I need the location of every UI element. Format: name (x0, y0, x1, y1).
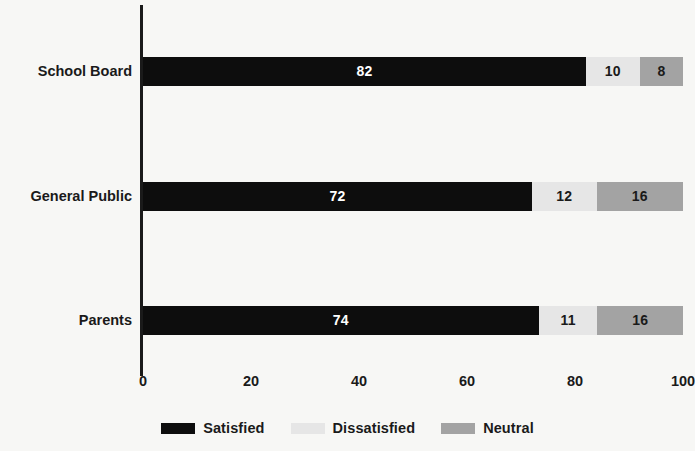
x-axis-tick-label: 80 (567, 373, 583, 389)
x-axis-tick-label: 40 (351, 373, 367, 389)
bar-segment-value-label: 10 (605, 64, 621, 78)
x-axis-tick-labels: 020406080100 (143, 373, 683, 397)
x-axis-tick-label: 60 (459, 373, 475, 389)
bar-segment-value-label: 11 (560, 313, 575, 327)
bar-segment-value-label: 8 (657, 64, 665, 78)
bar-segment[interactable]: 16 (597, 182, 683, 211)
legend-label: Dissatisfied (333, 420, 416, 436)
bar-segment-value-label: 16 (632, 313, 648, 327)
bar-row: 741116 (143, 306, 683, 335)
legend-item[interactable]: Dissatisfied (291, 420, 416, 436)
category-label-text: School Board (38, 63, 132, 79)
bar-segment[interactable]: 8 (640, 57, 683, 86)
bar-row: 721216 (143, 182, 683, 211)
legend-label: Satisfied (203, 420, 264, 436)
bar-segment-value-label: 82 (356, 64, 372, 78)
x-axis-tick-label: 0 (139, 373, 147, 389)
legend-swatch-icon (161, 423, 195, 434)
category-label-text: Parents (79, 312, 132, 328)
x-axis-tick-label: 20 (243, 373, 259, 389)
category-label: General Public (0, 187, 132, 205)
category-label: School Board (0, 62, 132, 80)
bar-segment-value-label: 12 (556, 189, 572, 203)
stacked-bar-chart: 82108721216741116 School BoardGeneral Pu… (0, 0, 695, 451)
legend-item[interactable]: Satisfied (161, 420, 264, 436)
legend-label: Neutral (483, 420, 534, 436)
legend-swatch-icon (291, 423, 325, 434)
x-axis-tick-label: 100 (671, 373, 695, 389)
chart-legend: SatisfiedDissatisfiedNeutral (0, 420, 695, 436)
bar-segment[interactable]: 11 (539, 306, 598, 335)
bar-row: 82108 (143, 57, 683, 86)
bar-segment[interactable]: 16 (597, 306, 683, 335)
bar-segment[interactable]: 74 (143, 306, 539, 335)
bar-segment-value-label: 74 (333, 313, 349, 327)
category-label-text: General Public (30, 188, 132, 204)
legend-swatch-icon (441, 423, 475, 434)
legend-item[interactable]: Neutral (441, 420, 534, 436)
bar-segment[interactable]: 72 (143, 182, 532, 211)
bar-segment-value-label: 72 (329, 189, 345, 203)
plot-area: 82108721216741116 (143, 5, 683, 368)
bar-segment[interactable]: 10 (586, 57, 640, 86)
bar-segment-value-label: 16 (632, 189, 648, 203)
bar-segment[interactable]: 12 (532, 182, 597, 211)
category-label: Parents (0, 311, 132, 329)
bar-segment[interactable]: 82 (143, 57, 586, 86)
